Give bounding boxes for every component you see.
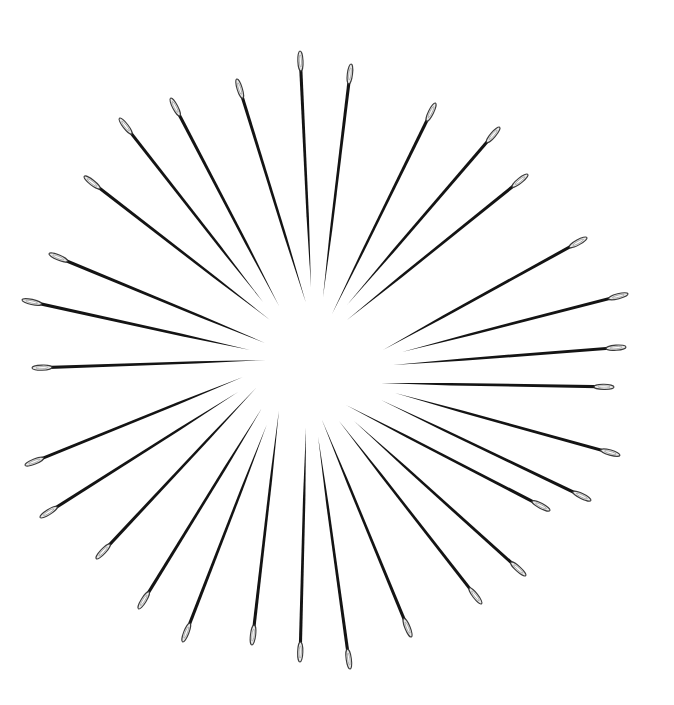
needle-eye-hole <box>598 386 610 388</box>
needle-eye-hole <box>36 366 48 369</box>
needle-sunburst-image <box>0 0 674 705</box>
needle-eye-hole <box>299 646 302 658</box>
